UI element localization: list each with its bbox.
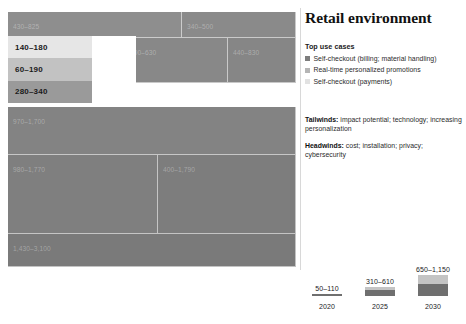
tooltip-row-value: 280–340 [8,87,48,96]
tailwinds-label: Tailwinds: [305,116,338,123]
tooltip-row: 60–190 [8,58,136,80]
use-case-label: Self-checkout (billing; material handlin… [314,55,437,63]
legend-value: 310–610 [366,278,394,285]
headwinds-label: Headwinds: [305,142,344,149]
tooltip-row: 280–340 [8,81,136,103]
legend-year-label: 2025 [372,303,388,310]
legend-column: 310–6102025 [358,258,402,310]
treemap-cell[interactable]: 1,430–3,100 [8,234,296,267]
treemap-cell[interactable]: 980–1,770 [8,155,158,234]
panel-divider [300,8,301,270]
treemap-cell[interactable]: 970–1,700 [8,107,296,155]
legend-bar-segment [418,275,448,284]
retail-environment-treemap-slide: 430–825340–500400–630440–830970–1,700980… [0,0,466,324]
treemap-cell-value: 400–630 [130,49,224,57]
tooltip-row-value: 60–190 [8,65,43,74]
use-case-label: Self-checkout (payments) [314,78,393,86]
treemap-cell-value: 970–1,700 [13,118,292,126]
treemap-tooltip: 140–18060–190280–340 [8,36,136,103]
use-case-color-swatch-icon [305,68,310,73]
chart-legend: 50–1102020310–6102025650–1,1502030 [305,258,466,310]
treemap-cell-value: 440–830 [233,49,292,57]
use-case-item: Self-checkout (billing; material handlin… [305,55,466,63]
legend-bar-segment [365,290,395,296]
legend-column: 50–1102020 [305,258,349,310]
legend-value: 50–110 [315,285,338,292]
treemap-cell-value: 980–1,770 [13,166,154,174]
legend-bar [312,294,342,296]
headwinds-text: Headwinds: cost; installation; privacy; … [305,141,463,159]
treemap-cell-value: 340–500 [187,23,292,31]
treemap-cell[interactable]: 430–825 [8,12,182,38]
use-case-item: Real-time personalized promotions [305,66,466,74]
legend-bar-segment [418,284,448,296]
legend-year-label: 2020 [319,303,335,310]
use-case-color-swatch-icon [305,79,310,84]
legend-bar [418,275,448,296]
use-cases-list: Self-checkout (billing; material handlin… [305,55,466,89]
legend-value: 650–1,150 [416,266,450,273]
use-case-color-swatch-icon [305,56,310,61]
use-case-item: Self-checkout (payments) [305,78,466,86]
tailwinds-text: Tailwinds: impact potential; technology;… [305,115,463,133]
treemap-cell[interactable]: 340–500 [182,12,296,38]
treemap-cell-value: 430–825 [13,23,178,31]
legend-bar-segment [312,294,342,296]
legend-year-label: 2030 [425,303,441,310]
treemap-cell-value: 1,430–3,100 [13,245,292,253]
legend-column: 650–1,1502030 [411,258,455,310]
page-title: Retail environment [305,9,432,27]
tooltip-row-value: 140–180 [8,43,48,52]
treemap-cell[interactable]: 440–830 [228,38,296,83]
treemap-cell[interactable]: 400–630 [125,38,228,83]
treemap-cell-value: 400–1,790 [163,166,292,174]
use-cases-heading: Top use cases [305,42,355,51]
treemap-cell[interactable]: 400–1,790 [158,155,296,234]
tooltip-row: 140–180 [8,36,136,58]
use-case-label: Real-time personalized promotions [314,66,421,74]
legend-bar [365,287,395,296]
